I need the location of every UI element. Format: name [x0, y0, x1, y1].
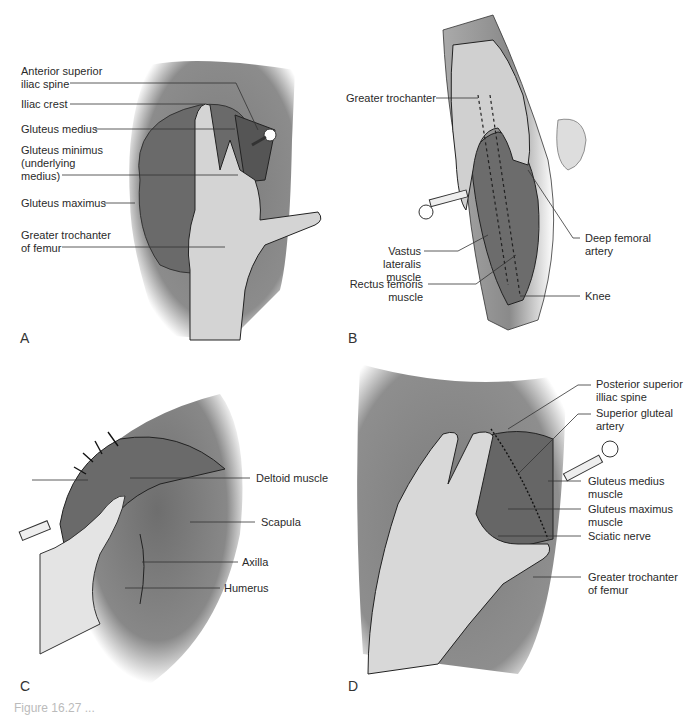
panel-letter-a: A	[20, 330, 29, 346]
label-humerus: Humerus	[224, 582, 269, 595]
label-rectus-femoris: Rectus femoris muscle	[348, 278, 423, 304]
label-gluteus-medius-muscle: Gluteus medius muscle	[588, 475, 664, 501]
label-axilla: Axilla	[242, 556, 268, 569]
label-iliac-crest: Iliac crest	[21, 98, 67, 111]
panel-c: Deltoid muscle Scapula Axilla Humerus C	[0, 354, 348, 708]
label-gluteus-maximus: Gluteus maximus	[21, 197, 106, 210]
label-deep-femoral-artery: Deep femoral artery	[585, 232, 651, 258]
label-scapula: Scapula	[261, 516, 301, 529]
label-posterior-superior-illiac-spine: Posterior superior illiac spine	[596, 378, 683, 404]
label-gluteus-maximus-muscle: Gluteus maximus muscle	[588, 503, 673, 529]
label-gluteus-medius: Gluteus medius	[21, 123, 97, 136]
label-sciatic-nerve: Sciatic nerve	[588, 530, 651, 543]
panel-b: Greater trochanter Vastus lateralis musc…	[348, 0, 696, 354]
label-gluteus-minimus: Gluteus minimus (underlying medius)	[21, 144, 103, 183]
label-knee: Knee	[585, 290, 611, 303]
label-greater-trochanter-of-femur: Greater trochanter of femur	[588, 571, 678, 597]
label-superior-gluteal-artery: Superior gluteal artery	[596, 407, 673, 433]
panel-letter-d: D	[348, 678, 358, 694]
figure-caption-cropped: Figure 16.27 ...	[14, 701, 95, 715]
panel-a: Anterior superior iliac spine Iliac cres…	[0, 0, 348, 354]
panel-d: Posterior superior illiac spine Superior…	[348, 354, 696, 708]
panel-letter-c: C	[20, 678, 30, 694]
label-anterior-superior-iliac-spine: Anterior superior iliac spine	[21, 65, 102, 91]
label-greater-trochanter-femur: Greater trochanter of femur	[21, 229, 111, 255]
leader-lines	[0, 354, 348, 708]
label-greater-trochanter: Greater trochanter	[346, 92, 436, 105]
panel-letter-b: B	[348, 330, 357, 346]
label-deltoid-muscle: Deltoid muscle	[256, 472, 328, 485]
